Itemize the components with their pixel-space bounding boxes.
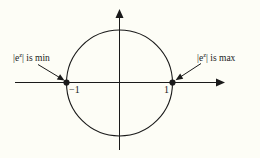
- min-label-text: is min: [24, 53, 50, 63]
- min-leader-line: [38, 65, 62, 80]
- real-axis-arrowhead: [216, 79, 225, 87]
- max-annotation-label: |ez| is max: [197, 54, 235, 64]
- max-leader-arrowhead: [176, 73, 184, 80]
- complex-plane-figure: |ez| is min |ez| is max −1 1: [0, 0, 260, 158]
- max-label-text: is max: [208, 53, 235, 63]
- tick-label-negative-one: −1: [69, 85, 80, 95]
- min-leader-arrowhead: [57, 74, 65, 80]
- figure-canvas: [0, 0, 260, 158]
- imaginary-axis-arrowhead: [116, 9, 124, 18]
- min-annotation-label: |ez| is min: [13, 54, 50, 64]
- point-plus-one: [169, 79, 175, 85]
- tick-label-positive-one: 1: [164, 85, 169, 95]
